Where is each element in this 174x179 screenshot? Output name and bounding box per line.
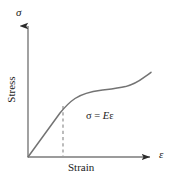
hookes-law-equation: σ = Eε (86, 111, 114, 122)
y-axis-symbol-sigma: σ (16, 7, 21, 18)
equation-sigma: σ (86, 110, 92, 121)
x-axis-title: Strain (68, 162, 94, 173)
equation-equals: = (94, 110, 100, 121)
equation-epsilon: ε (109, 110, 113, 121)
plot-canvas (0, 0, 174, 179)
x-axis-symbol-epsilon: ε (159, 149, 163, 160)
y-axis-title: Stress (6, 68, 17, 112)
stress-strain-figure: σ ε Strain Stress σ = Eε (0, 0, 174, 179)
